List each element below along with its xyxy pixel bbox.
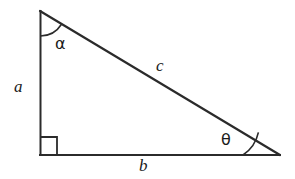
right-angle-square-marker <box>40 137 57 155</box>
angle-theta-label: θ <box>221 132 231 148</box>
side-b-label: b <box>139 157 148 174</box>
side-a-label: a <box>14 78 23 95</box>
triangle-svg <box>0 0 295 179</box>
side-c-hypotenuse-line <box>40 11 280 155</box>
right-triangle-diagram: a b c α θ <box>0 0 295 179</box>
side-c-label: c <box>156 57 164 74</box>
angle-alpha-label: α <box>55 36 66 52</box>
angle-theta-arc <box>243 132 258 155</box>
